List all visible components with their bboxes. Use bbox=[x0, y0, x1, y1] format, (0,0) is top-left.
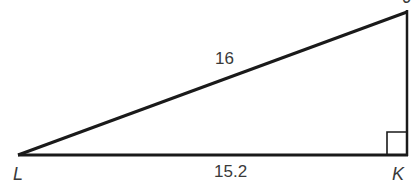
vertex-label-j: J bbox=[403, 0, 412, 6]
triangle-diagram bbox=[0, 0, 417, 186]
side-label-base: 15.2 bbox=[214, 163, 247, 180]
vertex-label-l: L bbox=[13, 165, 23, 183]
vertex-label-k: K bbox=[392, 165, 404, 183]
right-angle-marker bbox=[387, 132, 407, 155]
side-lj bbox=[18, 12, 407, 155]
side-label-hypotenuse: 16 bbox=[215, 50, 234, 67]
